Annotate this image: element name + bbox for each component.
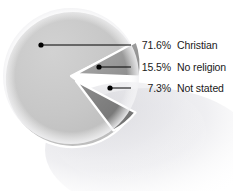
data-label-no-religion-category-box: No religion bbox=[177, 60, 233, 74]
data-label-no-religion: 15.5% No religion bbox=[0, 60, 233, 74]
data-label-not-stated-value: 7.3% bbox=[147, 81, 171, 95]
data-label-no-religion-value-box: 15.5% bbox=[133, 60, 171, 74]
data-label-not-stated: 7.3% Not stated bbox=[0, 81, 233, 95]
pie-chart-figure: 71.6% Christian 15.5% No religion 7.3% N… bbox=[0, 0, 233, 191]
data-label-christian-value-box: 71.6% bbox=[133, 38, 171, 52]
pie-chart-canvas bbox=[0, 0, 233, 191]
pie-rim-halo bbox=[3, 8, 139, 144]
data-label-no-religion-value: 15.5% bbox=[142, 60, 171, 74]
data-label-christian-category: Christian bbox=[177, 38, 218, 52]
data-label-christian: 71.6% Christian bbox=[0, 38, 233, 52]
data-label-not-stated-category: Not stated bbox=[177, 81, 224, 95]
data-label-not-stated-category-box: Not stated bbox=[177, 81, 233, 95]
data-label-christian-category-box: Christian bbox=[177, 38, 233, 52]
data-label-not-stated-value-box: 7.3% bbox=[133, 81, 171, 95]
data-label-no-religion-category: No religion bbox=[177, 60, 226, 74]
data-label-christian-value: 71.6% bbox=[142, 38, 171, 52]
